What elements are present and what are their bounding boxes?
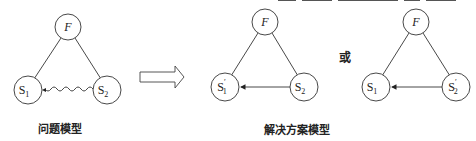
edge-f-s2	[75, 38, 101, 79]
hollow-right-arrow-icon	[140, 66, 184, 88]
edge-f-s2	[272, 33, 298, 76]
node-s1prime-label: S′1	[217, 78, 226, 96]
or-label: 或	[339, 48, 351, 65]
solution-variant-2: F S1 S′2	[362, 9, 470, 101]
wavy-arrowhead-icon	[42, 88, 46, 92]
node-f-label: F	[63, 20, 72, 34]
edge-f-s2prime	[423, 33, 450, 76]
node-f-label: F	[411, 15, 420, 29]
edge-f-s1prime	[231, 33, 258, 76]
edge-f-s1	[34, 38, 61, 79]
problem-model: F S1 S2	[14, 14, 121, 104]
problem-model-caption: 问题模型	[38, 120, 82, 136]
solution-variant-1: F S′1 S2	[211, 9, 318, 101]
solution-model-caption: 解决方案模型	[264, 121, 330, 137]
harmful-wavy-edge	[45, 87, 93, 91]
node-s2prime-label: S′2	[448, 78, 457, 96]
node-f-label: F	[260, 15, 269, 29]
edge-f-s1	[382, 33, 409, 76]
